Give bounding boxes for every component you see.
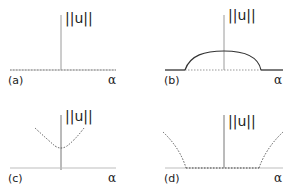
panel-b-nontrivial-arc [185,51,261,70]
panel-c-dotted-branch [35,128,84,148]
panel-b-x-label: α [274,73,282,87]
panel-c-label: (c) [8,172,23,185]
panel-d-right-dotted-branch [259,132,283,168]
panel-d-x-label: α [274,171,282,185]
panel-a-x-label: α [108,73,116,87]
panel-a-label: (a) [8,74,23,87]
panel-b: ||u|| (b) α [164,7,283,87]
panel-b-y-label: ||u|| [228,7,256,24]
panel-a-y-label: ||u|| [65,10,93,27]
panel-c-x-label: α [108,171,116,185]
panel-d-label: (d) [164,172,180,185]
panel-d: ||u|| (d) α [163,113,283,185]
panel-d-y-label: ||u|| [228,113,256,130]
panel-b-label: (b) [164,74,180,87]
panel-a: ||u|| (a) α [8,10,116,87]
bifurcation-diagram-figure: ||u|| (a) α ||u|| (b) α ||u|| (c) α ||u|… [0,0,295,193]
panel-c-y-label: ||u|| [65,108,93,125]
panel-c: ||u|| (c) α [8,108,116,185]
panel-d-left-dotted-branch [163,132,186,168]
